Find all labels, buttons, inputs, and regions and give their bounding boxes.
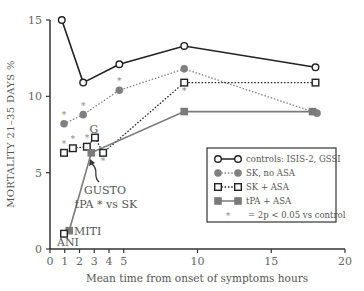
- significance-asterisk: *: [117, 76, 122, 86]
- x-tick-label: 20: [338, 255, 352, 268]
- annotation-label: G: [90, 123, 99, 136]
- series-line: [64, 69, 317, 124]
- significance-asterisk: *: [62, 110, 67, 120]
- y-tick-label: 5: [35, 167, 42, 180]
- significance-asterisk: *: [226, 211, 231, 221]
- legend-label: tPA + ASA: [246, 196, 292, 206]
- filled-square-marker: [234, 197, 242, 205]
- significance-asterisk: *: [101, 156, 106, 166]
- x-tick-label: 3: [91, 255, 98, 268]
- filled-circle-marker: [60, 120, 68, 128]
- x-tick-label: 4: [106, 255, 113, 268]
- annotation-label: tPA * vs SK: [75, 198, 138, 211]
- open-circle-marker: [235, 156, 242, 163]
- annotation-label: GUSTO: [84, 184, 126, 197]
- gusto-arrow: [92, 164, 99, 182]
- open-square-marker: [61, 150, 68, 157]
- filled-circle-marker: [234, 169, 242, 177]
- open-square-marker: [215, 184, 222, 191]
- legend-label: = 2p < 0.05 vs control: [248, 210, 346, 220]
- open-circle-marker: [80, 79, 87, 86]
- open-circle-marker: [59, 17, 66, 24]
- legend: controls: ISIS-2, GSSISK, no ASASK + ASA…: [207, 148, 346, 222]
- y-tick-label: 15: [28, 14, 42, 27]
- filled-square-marker: [214, 197, 222, 205]
- open-circle-marker: [215, 156, 222, 163]
- y-tick-label: 0: [35, 243, 42, 256]
- significance-asterisk: *: [182, 86, 187, 96]
- series-line: [64, 83, 315, 153]
- x-tick-label: 1: [61, 255, 68, 268]
- filled-circle-marker: [180, 65, 188, 73]
- significance-asterisk: *: [71, 134, 76, 144]
- x-tick-label: 5: [120, 255, 127, 268]
- filled-square-marker: [88, 149, 96, 157]
- legend-label: SK + ASA: [246, 182, 290, 192]
- filled-circle-marker: [214, 169, 222, 177]
- x-tick-label: 15: [264, 255, 278, 268]
- series-line: [62, 20, 316, 83]
- open-circle-marker: [181, 43, 188, 50]
- filled-square-marker: [309, 108, 317, 116]
- mortality-chart: 051015012345101520Mean time from onset o…: [0, 0, 364, 291]
- x-axis-label: Mean time from onset of symptoms hours: [86, 272, 308, 284]
- open-circle-marker: [312, 64, 319, 71]
- annotation-label: ANI: [56, 236, 79, 249]
- open-square-marker: [312, 79, 319, 86]
- x-tick-label: 10: [191, 255, 205, 268]
- filled-circle-marker: [116, 86, 124, 94]
- x-tick-label: 2: [76, 255, 83, 268]
- legend-label: controls: ISIS-2, GSSI: [246, 154, 341, 164]
- open-square-marker: [235, 184, 242, 191]
- open-square-marker: [70, 145, 77, 152]
- y-tick-label: 10: [28, 90, 42, 103]
- filled-square-marker: [180, 108, 188, 116]
- legend-label: SK, no ASA: [246, 168, 296, 178]
- filled-circle-marker: [79, 111, 87, 119]
- significance-asterisk: *: [81, 101, 86, 111]
- x-tick-label: 0: [47, 255, 54, 268]
- significance-asterisk: *: [62, 139, 67, 149]
- y-axis-label: MORTALITY 21–35 DAYS %: [5, 60, 16, 207]
- open-circle-marker: [116, 61, 123, 68]
